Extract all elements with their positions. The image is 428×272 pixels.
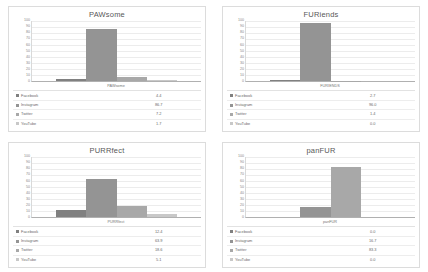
y-axis-tick: 30 (26, 62, 30, 66)
legend-left: YouTube (227, 256, 330, 264)
legend-row[interactable]: YouTube1.7 (13, 120, 201, 128)
legend-series-name: Facebook (235, 228, 252, 236)
legend-row[interactable]: Instagram63.9 (13, 237, 201, 246)
bar-instagram[interactable] (86, 29, 116, 81)
legend-series-value: 0.0 (330, 256, 415, 264)
legend-left: Instagram (227, 237, 330, 245)
chart-card[interactable]: panFUR1009080706050403020100panFURFacebo… (222, 142, 420, 268)
chart-card[interactable]: PURRfect1009080706050403020100PURRfectFa… (8, 142, 206, 268)
y-axis-tick: 50 (240, 50, 244, 54)
bars-container (32, 157, 201, 217)
legend-row[interactable]: Facebook12.4 (13, 227, 201, 236)
y-axis: 1009080706050403020100 (227, 157, 245, 218)
legend-row[interactable]: YouTube0.0 (227, 256, 415, 264)
legend-row[interactable]: YouTube0.0 (227, 120, 415, 128)
x-axis-label: FURIENDS (245, 82, 415, 90)
y-axis-tick: 70 (240, 174, 244, 178)
chart-cell-3: PURRfect1009080706050403020100PURRfectFa… (0, 136, 214, 272)
y-axis-tick: 50 (26, 186, 30, 190)
legend-left: Twitter (227, 246, 330, 254)
legend-row[interactable]: Twitter7.2 (13, 110, 201, 119)
chart-title: FURiends (227, 10, 415, 21)
bar-instagram[interactable] (86, 179, 116, 218)
chart-card[interactable]: FURiends1009080706050403020100FURIENDSFa… (222, 6, 420, 132)
legend-series-name: Twitter (21, 110, 32, 118)
legend-series-name: YouTube (235, 120, 250, 128)
bar-twitter[interactable] (331, 81, 361, 82)
bar-twitter[interactable] (331, 167, 361, 217)
x-axis-label: PAWsome (31, 82, 201, 90)
legend-row[interactable]: Facebook4.4 (13, 91, 201, 100)
y-axis-tick: 100 (238, 155, 244, 159)
legend-row[interactable]: Instagram86.7 (13, 101, 201, 110)
legend-swatch-icon (230, 94, 233, 97)
chart-cell-4: panFUR1009080706050403020100panFURFacebo… (214, 136, 428, 272)
bar-facebook[interactable] (56, 79, 86, 82)
y-axis-tick: 20 (240, 204, 244, 208)
y-axis-tick: 80 (240, 31, 244, 35)
y-axis-tick: 40 (240, 192, 244, 196)
bar-instagram[interactable] (300, 207, 330, 217)
legend-series-value: 1.7 (116, 120, 201, 128)
legend-left: Instagram (13, 237, 116, 245)
legend-series-name: Facebook (21, 92, 38, 100)
legend-swatch-icon (16, 104, 19, 107)
legend-row[interactable]: Facebook0.0 (227, 227, 415, 236)
legend-left: YouTube (13, 256, 116, 264)
bar-instagram[interactable] (300, 23, 330, 81)
chart-cell-1: PAWsome1009080706050403020100PAWsomeFace… (0, 0, 214, 136)
legend-series-name: Twitter (235, 110, 246, 118)
bar-youtube[interactable] (147, 214, 177, 217)
legend-swatch-icon (230, 104, 233, 107)
y-axis-tick: 60 (26, 44, 30, 48)
y-axis-tick: 70 (240, 38, 244, 42)
y-axis-tick: 70 (26, 174, 30, 178)
bar-facebook[interactable] (270, 80, 300, 82)
y-axis-tick: 20 (26, 68, 30, 72)
y-axis-tick: 90 (240, 161, 244, 165)
chart-card[interactable]: PAWsome1009080706050403020100PAWsomeFace… (8, 6, 206, 132)
bar-facebook[interactable] (56, 210, 86, 217)
chart-title: PAWsome (13, 10, 201, 21)
legend-row[interactable]: Instagram16.7 (227, 237, 415, 246)
bar-youtube[interactable] (147, 80, 177, 81)
legend-row[interactable]: YouTube5.1 (13, 256, 201, 264)
legend-row[interactable]: Twitter1.4 (227, 110, 415, 119)
bar-group (56, 157, 178, 217)
legend-swatch-icon (230, 230, 233, 233)
y-axis-tick: 90 (26, 25, 30, 29)
y-axis-tick: 30 (26, 198, 30, 202)
bar-twitter[interactable] (117, 77, 147, 81)
legend-swatch-icon (230, 113, 233, 116)
bar-group (270, 21, 392, 81)
y-axis-tick: 0 (28, 81, 30, 85)
legend-series-value: 0.0 (330, 120, 415, 128)
x-axis: FURIENDS (227, 82, 415, 90)
legend-row[interactable]: Twitter18.6 (13, 246, 201, 255)
y-axis-tick: 0 (242, 81, 244, 85)
legend-series-value: 2.7 (330, 92, 415, 100)
bars-container (32, 21, 201, 81)
bar-group (56, 21, 178, 81)
legend-row[interactable]: Twitter83.3 (227, 246, 415, 255)
legend-row[interactable]: Instagram96.0 (227, 101, 415, 110)
y-axis-tick: 50 (240, 186, 244, 190)
x-axis: PAWsome (13, 82, 201, 90)
legend-series-value: 0.0 (330, 228, 415, 236)
legend-left: Facebook (227, 92, 330, 100)
y-axis-tick: 60 (240, 180, 244, 184)
legend-series-name: Instagram (21, 237, 38, 245)
x-axis: panFUR (227, 218, 415, 226)
y-axis-tick: 0 (28, 217, 30, 221)
legend-swatch-icon (16, 240, 19, 243)
plot-area: 1009080706050403020100 (227, 21, 415, 82)
legend-swatch-icon (230, 249, 233, 252)
legend-swatch-icon (16, 113, 19, 116)
bars-container (246, 21, 415, 81)
legend-data-table: Facebook12.4Instagram63.9Twitter18.6YouT… (13, 226, 201, 264)
legend-row[interactable]: Facebook2.7 (227, 91, 415, 100)
bar-twitter[interactable] (117, 206, 147, 217)
y-axis-tick: 20 (26, 204, 30, 208)
legend-left: Facebook (13, 228, 116, 236)
y-axis-tick: 80 (26, 31, 30, 35)
